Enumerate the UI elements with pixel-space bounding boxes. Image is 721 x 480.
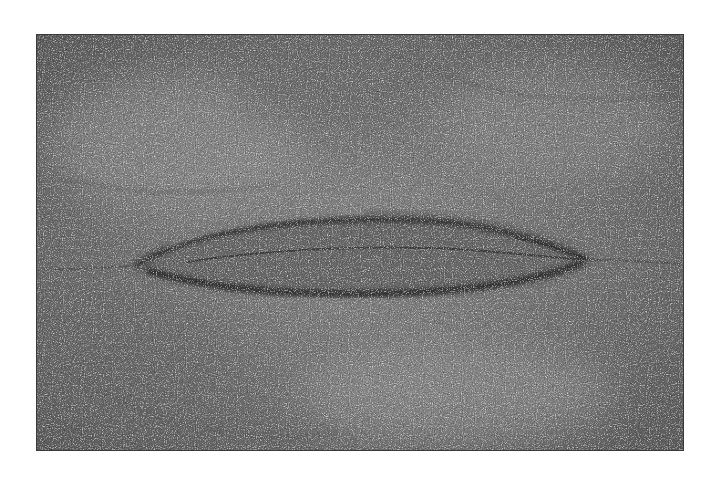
fossil-imprint-graphic (37, 35, 683, 450)
fossil-photo (36, 34, 684, 451)
